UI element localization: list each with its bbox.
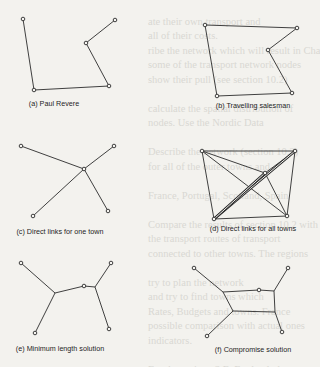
link-line: [205, 25, 297, 28]
town-node-icon: [106, 209, 110, 213]
link-line: [223, 290, 259, 292]
panel-c: [19, 144, 116, 218]
town-node-icon: [212, 217, 216, 221]
link-line: [84, 146, 114, 169]
link-line: [275, 312, 282, 332]
panel-f: [192, 266, 290, 338]
panel-d: [200, 149, 297, 221]
link-line: [207, 311, 233, 336]
link-line: [202, 151, 265, 173]
town-node-icon: [82, 284, 86, 288]
link-line: [86, 43, 109, 86]
link-line: [23, 19, 34, 90]
caption-e: (e) Minimum length solution: [16, 344, 104, 353]
town-node-icon: [203, 23, 207, 27]
town-node-icon: [112, 144, 116, 148]
panel-b: [203, 23, 299, 98]
link-line: [86, 20, 115, 43]
town-node-icon: [82, 167, 86, 171]
link-line: [95, 263, 111, 287]
town-node-icon: [84, 41, 88, 45]
link-line: [33, 169, 84, 216]
link-line: [233, 311, 275, 312]
link-line: [35, 293, 55, 333]
town-node-icon: [192, 266, 196, 270]
town-node-icon: [266, 48, 270, 52]
link-line: [202, 151, 287, 216]
link-line: [194, 268, 223, 292]
town-node-icon: [293, 149, 297, 153]
town-node-icon: [113, 18, 117, 22]
link-line: [95, 287, 109, 329]
town-node-icon: [257, 288, 261, 292]
link-line: [287, 151, 295, 216]
link-line: [34, 86, 109, 90]
caption-c: (c) Direct links for one town: [16, 227, 103, 236]
town-node-icon: [215, 94, 219, 98]
panel-a: [21, 17, 117, 92]
town-node-icon: [31, 214, 35, 218]
link-line: [274, 268, 288, 291]
town-node-icon: [32, 88, 36, 92]
town-node-icon: [280, 330, 284, 334]
link-line: [55, 286, 84, 293]
link-line: [217, 93, 292, 96]
town-node-icon: [107, 84, 111, 88]
caption-a: (a) Paul Revere: [29, 99, 79, 108]
network-diagrams: [0, 0, 320, 367]
town-node-icon: [19, 144, 23, 148]
town-node-icon: [109, 261, 113, 265]
town-node-icon: [286, 266, 290, 270]
link-line: [268, 28, 297, 50]
town-node-icon: [107, 327, 111, 331]
panel-e: [19, 261, 113, 335]
link-line: [268, 50, 292, 93]
town-node-icon: [295, 26, 299, 30]
town-node-icon: [263, 171, 267, 175]
town-node-icon: [205, 334, 209, 338]
caption-b: (b) Travelling salesman: [216, 101, 290, 110]
link-line: [274, 291, 275, 312]
link-line: [259, 290, 274, 291]
town-node-icon: [19, 261, 23, 265]
link-line: [265, 173, 287, 216]
link-line: [202, 151, 214, 219]
link-line: [214, 216, 287, 219]
town-node-icon: [21, 17, 25, 21]
link-line: [21, 263, 55, 293]
caption-f: (f) Compromise solution: [215, 345, 291, 354]
link-line: [84, 169, 108, 211]
town-node-icon: [290, 91, 294, 95]
town-node-icon: [285, 214, 289, 218]
link-line: [21, 146, 84, 169]
link-line: [223, 292, 233, 311]
link-line: [205, 25, 217, 96]
town-node-icon: [33, 331, 37, 335]
town-node-icon: [200, 149, 204, 153]
caption-d: (d) Direct links for all towns: [210, 224, 296, 233]
